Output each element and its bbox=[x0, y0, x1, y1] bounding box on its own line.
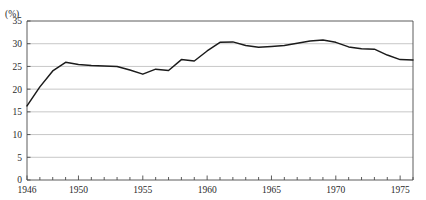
y-axis-tick-labels: 05101520253035 bbox=[13, 16, 23, 185]
svg-text:1975: 1975 bbox=[391, 185, 410, 195]
svg-text:15: 15 bbox=[13, 107, 23, 117]
svg-text:1946: 1946 bbox=[18, 185, 37, 195]
svg-text:35: 35 bbox=[13, 16, 23, 26]
line-chart-plot: 05101520253035 1946195019551960196519701… bbox=[0, 0, 426, 200]
svg-text:25: 25 bbox=[13, 62, 23, 72]
svg-text:30: 30 bbox=[13, 39, 23, 49]
svg-text:10: 10 bbox=[13, 130, 23, 140]
svg-text:1950: 1950 bbox=[69, 185, 88, 195]
svg-text:1955: 1955 bbox=[133, 185, 152, 195]
svg-text:1965: 1965 bbox=[262, 185, 281, 195]
data-series-group bbox=[27, 40, 413, 106]
svg-text:1970: 1970 bbox=[326, 185, 345, 195]
plot-frame bbox=[27, 21, 413, 180]
svg-text:1960: 1960 bbox=[198, 185, 217, 195]
svg-text:20: 20 bbox=[13, 85, 23, 95]
svg-text:0: 0 bbox=[17, 175, 22, 185]
gridlines-group bbox=[27, 44, 413, 158]
chart-figure: (%) 05101520253035 194619501955196019651… bbox=[0, 0, 426, 200]
x-axis-ticks-group bbox=[27, 176, 413, 181]
svg-text:5: 5 bbox=[17, 153, 22, 163]
x-axis-tick-labels: 1946195019551960196519701975 bbox=[18, 185, 410, 195]
